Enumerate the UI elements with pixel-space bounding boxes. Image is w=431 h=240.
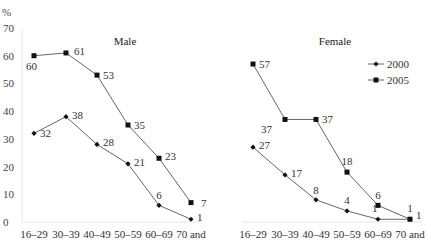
x-tick-label: 70 and	[176, 228, 206, 240]
data-point-2000	[31, 131, 36, 136]
data-label: 57	[259, 58, 271, 70]
data-label: 28	[103, 136, 115, 148]
data-point-2005	[95, 73, 100, 78]
data-label: 37	[322, 113, 334, 125]
series-line-2000	[34, 117, 191, 220]
data-label: 35	[134, 119, 146, 131]
data-point-2005	[64, 50, 69, 55]
y-tick-label: 30	[3, 133, 15, 145]
y-axis: 010203040506070	[3, 22, 22, 228]
x-tick-label: 60–69	[145, 228, 173, 240]
data-label: 27	[259, 139, 271, 151]
data-point-2000	[344, 208, 349, 213]
series-line-2005	[253, 64, 410, 219]
x-tick-label: 50–59	[333, 228, 361, 240]
data-label: 6	[156, 189, 162, 201]
data-label: 32	[40, 127, 51, 139]
legend-diamond-marker	[373, 61, 378, 66]
data-point-2000	[188, 217, 193, 222]
x-tick-label: 40–49	[83, 228, 111, 240]
panels: Male16–2930–3940–4950–5960–6970 and32382…	[20, 35, 425, 240]
data-label: 7	[201, 197, 207, 209]
y-tick-label: 70	[3, 22, 15, 34]
y-tick-label: 10	[3, 188, 15, 200]
x-tick-label: 16–29	[239, 228, 267, 240]
data-label: 17	[291, 167, 303, 179]
data-point-2000	[375, 217, 380, 222]
panel-title: Female	[319, 35, 351, 47]
x-tick-label: 70 and	[395, 228, 425, 240]
x-tick-label: 60–69	[364, 228, 392, 240]
x-tick-label: 30–39	[271, 228, 299, 240]
y-tick-label: 40	[3, 105, 15, 117]
data-label: 60	[26, 60, 38, 72]
legend-item-2000: 2000	[368, 58, 410, 70]
data-point-2005	[32, 53, 37, 58]
x-tick-label: 50–59	[114, 228, 142, 240]
data-point-2005	[126, 123, 131, 128]
legend-label: 2000	[387, 58, 410, 70]
data-point-2005	[314, 117, 319, 122]
data-point-2005	[345, 170, 350, 175]
data-point-2005	[157, 156, 162, 161]
y-tick-label: 50	[3, 77, 15, 89]
data-label: 18	[342, 155, 354, 167]
x-tick-label: 16–29	[20, 228, 48, 240]
data-label: 4	[344, 194, 350, 206]
x-tick-label: 40–49	[302, 228, 330, 240]
panel-title: Male	[114, 35, 137, 47]
data-label: 1	[407, 202, 413, 214]
data-point-2005	[408, 217, 413, 222]
data-label: 53	[103, 69, 115, 81]
y-unit-label: %	[2, 6, 11, 18]
data-label: 1	[416, 209, 422, 221]
y-tick-label: 0	[3, 216, 9, 228]
data-label: 1	[197, 211, 203, 223]
data-point-2005	[376, 203, 381, 208]
panel-male: Male16–2930–3940–4950–5960–6970 and32382…	[20, 35, 207, 240]
data-label: 37	[261, 123, 273, 135]
data-label: 38	[72, 109, 84, 121]
legend: 20002005	[368, 58, 410, 86]
y-tick-label: 20	[3, 161, 15, 173]
legend-square-marker	[374, 78, 379, 83]
data-label: 23	[165, 150, 177, 162]
legend-label: 2005	[387, 74, 410, 86]
chart: % 010203040506070 Male16–2930–3940–4950–…	[0, 0, 431, 240]
data-label: 21	[134, 156, 145, 168]
legend-item-2005: 2005	[368, 74, 410, 86]
data-label: 61	[74, 45, 85, 57]
data-label: 8	[313, 184, 319, 196]
y-tick-label: 60	[3, 50, 15, 62]
series-line-2000	[253, 147, 410, 219]
x-tick-label: 30–39	[52, 228, 80, 240]
data-point-2005	[189, 200, 194, 205]
data-point-2005	[251, 62, 256, 67]
data-label: 6	[375, 189, 381, 201]
data-point-2005	[283, 117, 288, 122]
